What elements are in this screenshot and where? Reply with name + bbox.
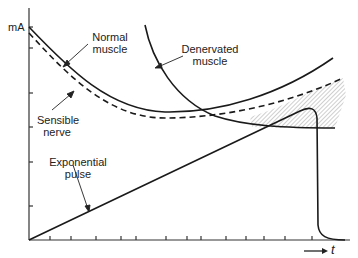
hatched-region: [250, 78, 346, 128]
exponential-pulse-label-line2: pulse: [48, 168, 108, 180]
time-arrow-icon: [304, 248, 328, 254]
y-axis: [29, 8, 33, 240]
exponential-pulse-label: Exponential pulse: [48, 156, 108, 180]
denervated-muscle-label-line1: Denervated: [180, 43, 240, 55]
x-axis: [29, 236, 350, 240]
sensible-nerve-label: Sensible nerve: [37, 114, 77, 138]
y-axis-label: mA: [8, 21, 25, 33]
normal-muscle-label-line1: Normal: [90, 31, 130, 43]
exponential-pulse-label-line1: Exponential: [48, 156, 108, 168]
normal-muscle-label: Normal muscle: [90, 31, 130, 55]
x-axis-label: t: [331, 244, 335, 256]
sensible-nerve-label-line2: nerve: [37, 126, 77, 138]
denervated-muscle-label-line2: muscle: [180, 55, 240, 67]
sensible-nerve-label-line1: Sensible: [37, 114, 77, 126]
normal-muscle-curve: [29, 27, 333, 112]
denervated-muscle-label: Denervated muscle: [180, 43, 240, 67]
normal-muscle-label-line2: muscle: [90, 43, 130, 55]
